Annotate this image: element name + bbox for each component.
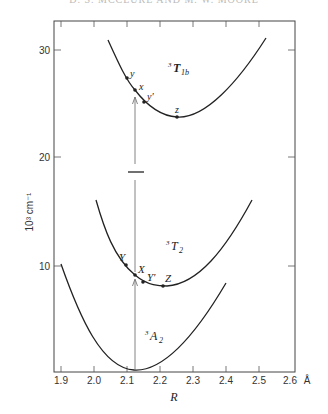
point-label-Y-prime: Y'	[147, 271, 156, 283]
x-tick-label: 2.1	[120, 375, 134, 386]
x-ticks	[61, 21, 259, 372]
svg-text:3: 3	[144, 329, 149, 337]
point-label-X: X	[137, 263, 146, 275]
x-tick-label: 2.4	[219, 375, 233, 386]
svg-text:T: T	[173, 61, 181, 75]
x-tick-label: 2.5	[252, 375, 266, 386]
svg-text:3: 3	[167, 61, 172, 69]
label-3A2: 3 A 2	[144, 329, 163, 345]
x-tick-label: 2.6	[283, 375, 297, 386]
y-tick-label: 30	[39, 45, 51, 56]
point-label-z: z	[174, 104, 179, 115]
svg-text:2: 2	[159, 336, 163, 345]
point-label-y-prime: y'	[146, 91, 154, 102]
curve-3A2	[61, 264, 226, 370]
y-axis-title: 10³ cm⁻¹	[24, 192, 35, 232]
x-axis-title: R	[169, 390, 178, 404]
point-label-x: x	[138, 81, 144, 92]
y-ticks	[54, 50, 295, 266]
x-tick-label: 2.0	[87, 375, 101, 386]
label-3T2: 3 T 2	[165, 239, 183, 255]
x-tick-label: 1.9	[54, 375, 68, 386]
svg-text:T: T	[171, 239, 179, 253]
potential-energy-chart: 1.9 2.0 2.1 2.2 2.3 2.4 2.5 2.6 Å 30 20 …	[0, 0, 328, 414]
point-label-y: y	[129, 68, 135, 79]
y-tick-label: 10	[39, 261, 51, 272]
svg-text:2: 2	[179, 246, 183, 255]
x-tick-label: 2.3	[186, 375, 200, 386]
y-tick-label: 20	[39, 152, 51, 163]
svg-text:A: A	[149, 329, 158, 343]
x-tick-label: 2.2	[153, 375, 167, 386]
label-3T1b: 3 T 1b	[167, 61, 189, 77]
x-unit-label: Å	[304, 374, 311, 386]
point-label-Y: Y	[119, 251, 127, 263]
point-label-Z: Z	[165, 272, 172, 284]
svg-text:1b: 1b	[181, 68, 189, 77]
svg-text:3: 3	[165, 239, 170, 247]
